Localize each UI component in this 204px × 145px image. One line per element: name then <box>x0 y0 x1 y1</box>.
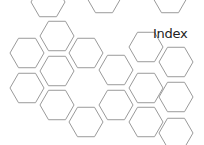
hexagon-shape <box>153 0 187 13</box>
hexagon-shape <box>87 0 121 13</box>
hexagon-shape <box>99 55 133 84</box>
hexagon-shape <box>69 38 103 67</box>
hexagon-shape <box>129 73 163 102</box>
hexagon-shape <box>159 47 193 76</box>
hexagon-shape <box>159 82 193 111</box>
hexagon-shape <box>31 0 65 17</box>
hexagon-shape <box>40 56 74 85</box>
hexagon-shape <box>40 90 74 119</box>
hexagon-shape <box>69 107 103 136</box>
hexagon-shape <box>40 21 74 50</box>
hexagon-shape <box>10 38 44 67</box>
hexagon-pattern <box>0 0 204 145</box>
hexagon-shape <box>159 118 193 145</box>
hexagon-shape <box>99 90 133 119</box>
hexagon-shape <box>10 73 44 102</box>
hexagon-shape <box>129 107 163 136</box>
page-title: Index <box>153 27 187 40</box>
